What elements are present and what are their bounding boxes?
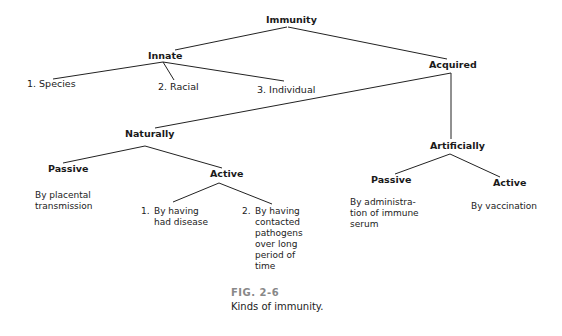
desc-line: tion of immune [350, 208, 419, 219]
desc-line: By vaccination [471, 201, 537, 212]
node-artificial-active: Active [493, 177, 526, 188]
node-artificially: Artificially [430, 140, 485, 151]
desc-line: contacted [255, 217, 303, 228]
desc-line: By administra- [350, 197, 419, 208]
desc-line: time [255, 261, 303, 272]
node-individual: 3. Individual [257, 84, 315, 95]
desc-line: transmission [35, 201, 93, 212]
node-natural-active: Active [210, 168, 243, 179]
desc-line: By having [255, 206, 303, 217]
desc-line: pathogens [255, 228, 303, 239]
desc-line: had disease [154, 217, 208, 228]
desc-line: period of [255, 250, 303, 261]
node-racial: 2. Racial [158, 81, 199, 92]
item-lines: By having had disease [154, 206, 208, 228]
item-lines: By having contacted pathogens over long … [255, 206, 303, 272]
node-acquired: Acquired [429, 59, 477, 70]
figure-number: FIG. 2-6 [231, 287, 279, 298]
node-artificial-passive: Passive [371, 174, 411, 185]
natural-passive-desc: By placental transmission [35, 190, 93, 212]
node-species: 1. Species [27, 78, 76, 89]
desc-line: By placental [35, 190, 93, 201]
natural-active-item-1: 1. By having had disease [141, 206, 150, 217]
item-number: 1. [141, 206, 150, 216]
node-natural-passive: Passive [48, 163, 88, 174]
desc-line: over long [255, 239, 303, 250]
node-innate: Innate [148, 50, 182, 61]
artificial-passive-desc: By administra- tion of immune serum [350, 197, 419, 230]
figure-caption: Kinds of immunity. [231, 301, 324, 312]
natural-active-item-2: 2. By having contacted pathogens over lo… [242, 206, 251, 217]
desc-line: By having [154, 206, 208, 217]
item-number: 2. [242, 206, 251, 216]
node-immunity: Immunity [266, 14, 317, 25]
node-naturally: Naturally [125, 128, 174, 139]
artificial-active-desc: By vaccination [471, 201, 537, 212]
desc-line: serum [350, 219, 419, 230]
